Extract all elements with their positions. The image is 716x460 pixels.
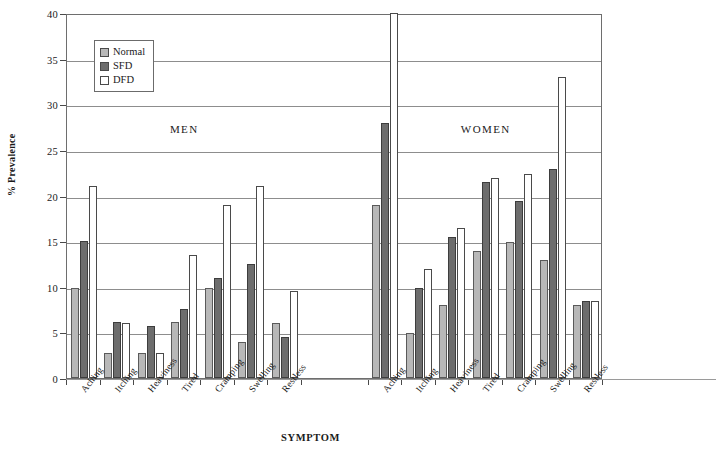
bar-men-restless-sfd [281,337,289,378]
bar-men-itching-sfd [113,322,121,378]
bar-men-tired-dfd [189,255,197,378]
x-tick-mark [502,380,503,385]
y-tick-label: 25 [32,145,58,156]
bar-women-aching-normal [372,205,380,378]
legend-item-dfd: DFD [100,73,145,87]
bar-women-restless-sfd [582,301,590,378]
x-tick-mark [100,380,101,385]
legend-label-dfd: DFD [113,75,134,86]
legend-swatch-sfd-icon [100,62,109,71]
gridline [67,198,601,199]
y-tick-label: 40 [32,9,58,20]
x-tick-mark [602,380,603,385]
x-tick-mark [133,380,134,385]
bar-men-swelling-dfd [256,186,264,378]
legend-label-sfd: SFD [113,61,132,72]
y-tick-label: 15 [32,237,58,248]
y-tick-label: 35 [32,54,58,65]
bar-women-cramping-dfd [524,174,532,378]
x-tick-mark [535,380,536,385]
gridline [67,106,601,107]
x-tick-mark [167,380,168,385]
bar-women-heaviness-normal [439,305,447,378]
legend: Normal SFD DFD [94,40,154,92]
x-tick-mark [435,380,436,385]
bar-women-itching-normal [406,333,414,378]
bar-men-itching-normal [104,353,112,378]
bar-men-cramping-dfd [223,205,231,378]
x-tick-mark [301,380,302,385]
bar-women-tired-dfd [491,178,499,378]
gridline [67,152,601,153]
bar-men-aching-sfd [80,241,88,378]
panel-caption-men: MEN [170,123,199,135]
y-tick-label: 0 [32,374,58,385]
bar-men-cramping-sfd [214,278,222,378]
x-tick-mark [569,380,570,385]
bar-men-aching-dfd [89,186,97,378]
bar-men-aching-normal [71,288,79,378]
bar-men-heaviness-sfd [147,326,155,378]
bar-women-swelling-dfd [558,77,566,378]
y-axis-title: % Prevalence [6,133,17,196]
panel-caption-women: WOMEN [461,123,511,135]
y-tick-label: 20 [32,191,58,202]
legend-item-normal: Normal [100,45,145,59]
bar-men-tired-sfd [180,309,188,378]
legend-label-normal: Normal [113,47,145,58]
bar-women-heaviness-dfd [457,228,465,378]
x-tick-mark [401,380,402,385]
bar-women-cramping-sfd [515,201,523,378]
x-tick-mark [468,380,469,385]
x-axis-title: SYMPTOM [0,432,621,443]
bar-men-swelling-sfd [247,264,255,378]
bar-women-aching-dfd [390,13,398,378]
y-tick-label: 5 [32,328,58,339]
y-tick-label: 30 [32,100,58,111]
x-tick-mark [66,380,67,385]
bar-women-tired-sfd [482,182,490,378]
legend-swatch-normal-icon [100,48,109,57]
legend-swatch-dfd-icon [100,76,109,85]
bar-women-heaviness-sfd [448,237,456,378]
x-tick-mark [200,380,201,385]
y-tick-label: 10 [32,282,58,293]
x-tick-mark [234,380,235,385]
x-tick-mark [368,380,369,385]
bar-women-swelling-sfd [549,169,557,378]
bar-women-cramping-normal [506,242,514,378]
bar-men-cramping-normal [205,288,213,378]
bar-men-heaviness-normal [138,353,146,378]
bar-women-aching-sfd [381,123,389,378]
bar-women-itching-dfd [424,269,432,378]
bar-women-itching-sfd [415,288,423,378]
legend-item-sfd: SFD [100,59,145,73]
x-tick-mark [267,380,268,385]
